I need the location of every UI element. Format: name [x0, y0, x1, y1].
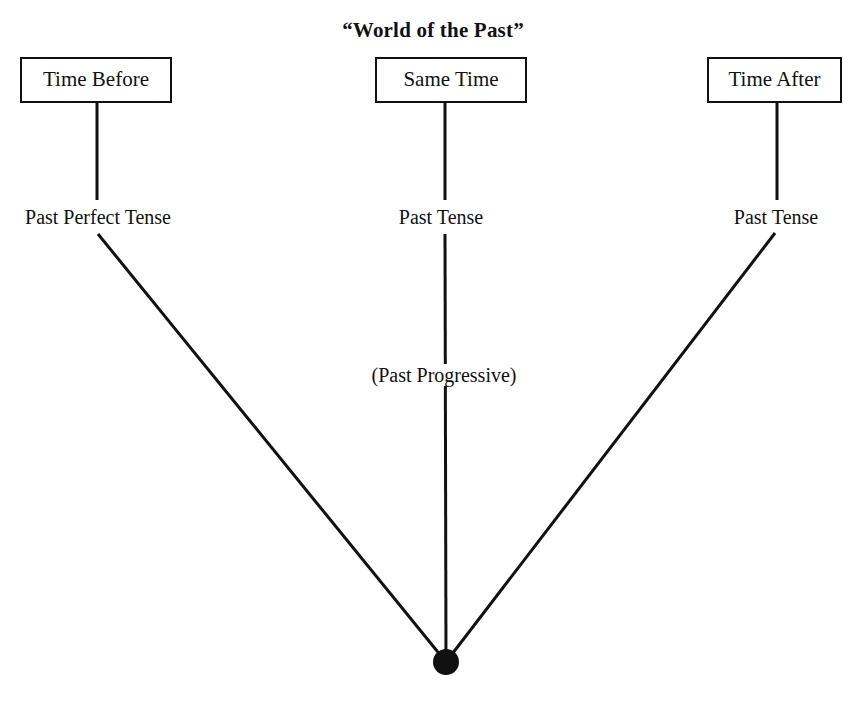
label-past-tense-middle: Past Tense	[393, 206, 489, 228]
ray-past-tense-right	[446, 233, 775, 662]
diagram-canvas: “World of the Past” Time Before Same Tim…	[0, 0, 866, 704]
ray-past-perfect-tense	[98, 234, 446, 662]
ray-past-tense-middle	[445, 234, 446, 662]
box-time-before: Time Before	[20, 57, 172, 103]
box-same-time: Same Time	[375, 57, 527, 103]
label-past-tense-right: Past Tense	[728, 206, 824, 228]
label-past-progressive-option: (Past Progressive)	[366, 364, 523, 386]
diagram-lines-layer	[0, 0, 866, 704]
convergence-point-dot	[433, 649, 459, 675]
box-same-time-label: Same Time	[403, 69, 498, 92]
box-time-after-label: Time After	[729, 69, 821, 92]
box-time-after: Time After	[707, 57, 842, 103]
label-past-perfect-tense: Past Perfect Tense	[19, 206, 177, 228]
box-time-before-label: Time Before	[43, 69, 149, 92]
